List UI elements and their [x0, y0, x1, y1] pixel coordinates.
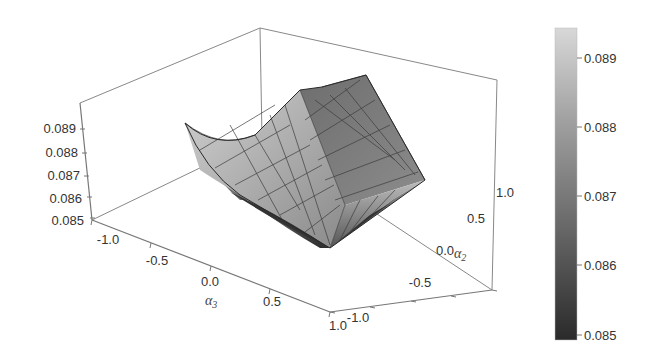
alpha2-tick-label: 0.0: [436, 243, 454, 258]
z-tick-label: 0.086: [49, 191, 82, 206]
surface-plot: 0.089 0.088 0.087 0.086 0.085 -1.0 -0.5 …: [0, 0, 659, 355]
z-tick-label: 0.089: [43, 121, 76, 136]
colorbar-tick-label: 0.087: [584, 189, 617, 204]
alpha2-tick-label: 1.0: [496, 185, 514, 200]
colorbar-tick-label: 0.085: [584, 328, 617, 343]
alpha3-tick-label: -0.5: [146, 253, 168, 268]
alpha3-tick-label: 1.0: [329, 318, 347, 333]
alpha2-axis-label: α2: [454, 246, 466, 263]
alpha2-tick-label: -1.0: [347, 310, 369, 325]
alpha3-tick-label: -1.0: [97, 232, 119, 247]
colorbar-tick-label: 0.088: [584, 120, 617, 135]
alpha2-tick-label: -0.5: [409, 275, 431, 290]
colorbar-tick-label: 0.086: [584, 258, 617, 273]
z-tick-label: 0.087: [47, 168, 80, 183]
z-tick-label: 0.088: [45, 145, 78, 160]
colorbar-tick-label: 0.089: [584, 51, 617, 66]
alpha2-tick-label: 0.5: [467, 211, 485, 226]
alpha3-tick-label: 0.5: [263, 294, 281, 309]
alpha3-axis-label: α3: [205, 293, 217, 310]
colorbar: 0.089 0.088 0.087 0.086 0.085: [555, 28, 617, 343]
alpha3-tick-label: 0.0: [201, 274, 219, 289]
z-tick-label: 0.085: [51, 213, 84, 228]
